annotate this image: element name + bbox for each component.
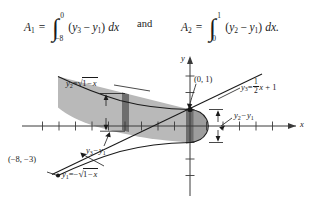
label-curve-y3: y3=12x + 1 — [241, 78, 276, 95]
x-axis-label: x — [300, 119, 304, 129]
formula-area-2-subscript: 2 — [188, 26, 192, 35]
y-axis-arrowhead-icon — [187, 56, 193, 64]
formula-row: A1 = ∫ 0 −8 (y3−y1) dx and A2 = ∫ 1 0 (y… — [0, 0, 315, 48]
formula-area-2: A2 = ∫ 1 0 (y2−y1) dx. — [181, 12, 279, 42]
graph-canvas — [0, 46, 315, 202]
integrand-2-right-sub: 1 — [255, 26, 259, 35]
integral-upper-limit-2: 1 — [217, 11, 221, 20]
formula-area-1-subscript: 1 — [31, 26, 35, 35]
label-strip-y3-minus-y1: y3 − y1 — [86, 145, 106, 155]
label-point-neg8-neg3: (−8, −3) — [8, 154, 36, 164]
formula-area-2-symbol: A2 — [181, 21, 192, 33]
label-point-0-1: (0, 1) — [194, 74, 212, 84]
integrand-2-left-sub: 2 — [234, 26, 238, 35]
formula-area-1-equals: = — [39, 21, 46, 33]
label-curve-y1: y1=−√1 − x — [62, 168, 98, 179]
formula-conjunction: and — [137, 18, 152, 29]
integral-lower-limit-2: 0 — [212, 34, 216, 43]
formula-area-2-equals: = — [196, 21, 203, 33]
formula-area-1-integrand: (y3−y1) — [68, 21, 105, 33]
label-strip-y2-minus-y1: y2 − y1 — [234, 110, 254, 120]
leader-curve-y1 — [82, 154, 104, 166]
formula-area-2-differential: dx. — [265, 21, 279, 33]
graph-figure: y x (0, 1) (−8, −3) y2=√1 − x y1=−√1 − x… — [0, 46, 315, 202]
integral-upper-limit-1: 0 — [60, 11, 64, 20]
formula-area-1-differential: dx — [108, 21, 119, 33]
integral-sign-1: ∫ 0 −8 — [51, 12, 67, 42]
point-marker-neg8-neg3 — [56, 173, 60, 177]
integrand-1-left-sub: 3 — [77, 26, 81, 35]
integral-lower-limit-1: −8 — [55, 34, 63, 43]
leader-curve-y2 — [114, 85, 150, 91]
measure-y2-arrowhead-bottom-icon — [216, 136, 221, 142]
formula-area-2-integrand: (y2−y1) — [225, 21, 262, 33]
integrand-2-operator: − — [238, 21, 250, 33]
x-axis-arrowhead-icon — [288, 123, 296, 129]
label-curve-y2: y2=√1 − x — [66, 77, 98, 88]
leader-label-y3-minus-y1-arrowhead-icon — [105, 132, 111, 137]
measure-y2-arrowhead-top-icon — [216, 110, 221, 116]
integral-sign-2: ∫ 1 0 — [208, 12, 224, 42]
integrand-1-operator: − — [81, 21, 93, 33]
formula-area-1: A1 = ∫ 0 −8 (y3−y1) dx — [24, 12, 119, 42]
y-axis-label: y — [181, 53, 185, 63]
formula-area-1-symbol: A1 — [24, 21, 35, 33]
integrand-1-right-sub: 1 — [98, 26, 102, 35]
